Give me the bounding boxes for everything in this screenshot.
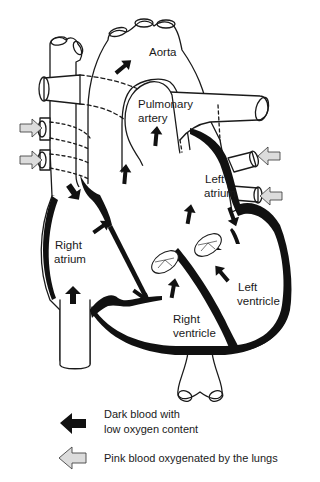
label-left-ventricle-2: ventricle [237,294,280,308]
label-right-ventricle-1: Right [173,312,200,326]
dark-arrow-icon [60,413,86,434]
legend-dark-line2: low oxygen content [104,422,198,436]
light-arrow-icon [59,447,86,469]
legend-pink-line1: Pink blood oxygenated by the lungs [104,451,278,465]
descending-aorta-stub [177,352,225,403]
label-left-atrium-1: Left [205,172,224,186]
label-right-ventricle-2: ventricle [173,326,216,340]
label-right-atrium-1: Right [55,238,82,252]
light-arrow-icon [258,147,280,165]
label-pulmonary-artery-1: Pulmonary [138,97,193,111]
label-left-atrium-2: atrium [204,186,236,200]
label-right-atrium-2: atrium [54,252,86,266]
label-pulmonary-artery-2: artery [138,111,167,125]
light-arrow-icon [20,151,42,169]
legend-icons [59,413,86,469]
inferior-vena-cava [60,300,90,369]
light-arrow-icon [260,187,282,205]
label-aorta: Aorta [149,45,177,59]
label-left-ventricle-1: Left [238,280,257,294]
legend-dark-line1: Dark blood with [104,407,180,421]
